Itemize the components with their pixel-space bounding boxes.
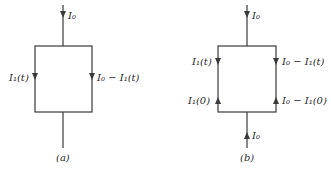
b-left-bottom-arrow-up-icon <box>215 97 221 104</box>
diagram-b: I₀ I₁(t) I₀ − I₁(t) I₁(0) I₀ − I₁(0) I₀ … <box>187 5 327 163</box>
b-label-left-branch-bottom: I₁(0) <box>187 95 210 106</box>
b-loop-box <box>218 46 276 112</box>
a-top-arrow-down-icon <box>60 11 66 18</box>
a-loop-box <box>35 46 92 112</box>
a-left-arrow-down-icon <box>32 73 38 80</box>
b-left-top-arrow-down-icon <box>215 58 221 65</box>
a-label-left-branch: I₁(t) <box>8 72 29 83</box>
b-right-bottom-arrow-up-icon <box>273 97 279 104</box>
b-label-bottom-input: I₀ <box>251 130 260 141</box>
a-caption: (a) <box>56 152 70 163</box>
a-label-top-input: I₀ <box>67 10 76 21</box>
b-top-arrow-down-icon <box>244 11 250 18</box>
diagram-a: I₀ I₁(t) I₀ − I₁(t) (a) <box>8 5 140 163</box>
b-label-right-branch-top: I₀ − I₁(t) <box>281 56 325 67</box>
b-label-right-branch-bottom: I₀ − I₁(0) <box>281 95 327 106</box>
diagram-canvas: I₀ I₁(t) I₀ − I₁(t) (a) I₀ I₁(t) I₀ − I₁… <box>0 0 331 176</box>
b-label-top-output: I₀ <box>251 10 260 21</box>
a-label-right-branch: I₀ − I₁(t) <box>96 72 140 83</box>
b-caption: (b) <box>240 152 254 163</box>
b-bottom-arrow-up-icon <box>244 132 250 139</box>
b-right-top-arrow-down-icon <box>273 58 279 65</box>
a-right-arrow-down-icon <box>89 73 95 80</box>
b-label-left-branch-top: I₁(t) <box>191 56 212 67</box>
